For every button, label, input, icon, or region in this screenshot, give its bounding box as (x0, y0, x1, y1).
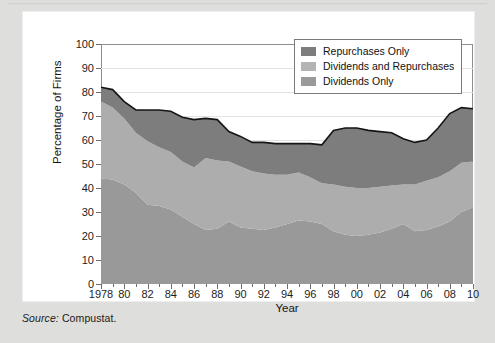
y-tick-mark (96, 236, 101, 237)
y-tick-label: 10 (66, 254, 94, 266)
x-tick-mark (415, 284, 416, 287)
legend-item: Repurchases Only (300, 44, 454, 58)
x-tick-label: 94 (281, 288, 293, 300)
x-tick-mark (438, 284, 439, 287)
y-tick-label: 70 (66, 110, 94, 122)
y-tick-label: 80 (66, 86, 94, 98)
source-note: Source: Compustat. (22, 312, 117, 324)
y-tick-mark (96, 188, 101, 189)
x-tick-label: 88 (211, 288, 223, 300)
x-tick-mark (113, 284, 114, 287)
figure-top-rule (8, 3, 487, 6)
x-tick-label: 84 (165, 288, 177, 300)
legend-label: Dividends Only (323, 75, 394, 87)
y-tick-label: 20 (66, 230, 94, 242)
x-tick-mark (182, 284, 183, 287)
x-tick-mark (252, 284, 253, 287)
legend-label: Repurchases Only (323, 45, 409, 57)
legend-swatch (300, 76, 317, 87)
x-tick-mark (368, 284, 369, 287)
x-tick-label: 00 (351, 288, 363, 300)
x-tick-label: 98 (327, 288, 339, 300)
chart-legend: Repurchases OnlyDividends and Repurchase… (294, 39, 462, 94)
y-tick-mark (96, 260, 101, 261)
x-axis-title: Year (101, 302, 473, 314)
y-tick-mark (96, 140, 101, 141)
y-tick-mark (96, 164, 101, 165)
x-tick-label: 04 (397, 288, 409, 300)
x-tick-mark (461, 284, 462, 287)
legend-label: Dividends and Repurchases (323, 60, 454, 72)
x-tick-label: 82 (141, 288, 153, 300)
x-tick-mark (159, 284, 160, 287)
x-tick-mark (229, 284, 230, 287)
y-axis-title: Percentage of Firms (51, 60, 63, 164)
x-tick-label: 02 (374, 288, 386, 300)
legend-item: Dividends Only (300, 74, 454, 88)
y-tick-label: 60 (66, 134, 94, 146)
y-tick-mark (96, 212, 101, 213)
figure-container: Percentage of Firms Year 197880828486889… (0, 0, 495, 343)
y-tick-label: 30 (66, 206, 94, 218)
x-tick-label: 90 (234, 288, 246, 300)
x-tick-label: 10 (467, 288, 479, 300)
legend-swatch (300, 46, 317, 57)
y-tick-label: 100 (66, 38, 94, 50)
legend-swatch (300, 61, 317, 72)
y-tick-mark (96, 68, 101, 69)
y-tick-label: 90 (66, 62, 94, 74)
x-tick-mark (206, 284, 207, 287)
legend-item: Dividends and Repurchases (300, 59, 454, 73)
x-tick-label: 96 (304, 288, 316, 300)
x-tick-mark (136, 284, 137, 287)
x-tick-mark (322, 284, 323, 287)
y-tick-label: 40 (66, 182, 94, 194)
y-tick-mark (96, 44, 101, 45)
x-tick-label: 92 (258, 288, 270, 300)
x-tick-mark (275, 284, 276, 287)
source-note-label: Source: (22, 312, 59, 324)
source-note-text: Compustat. (59, 312, 117, 324)
y-tick-mark (96, 116, 101, 117)
x-tick-label: 80 (118, 288, 130, 300)
x-tick-mark (299, 284, 300, 287)
x-tick-label: 86 (188, 288, 200, 300)
x-tick-mark (392, 284, 393, 287)
y-tick-label: 0 (66, 278, 94, 290)
x-tick-label: 06 (420, 288, 432, 300)
x-tick-mark (345, 284, 346, 287)
y-tick-label: 50 (66, 158, 94, 170)
x-tick-label: 08 (444, 288, 456, 300)
y-tick-mark (96, 92, 101, 93)
chart-card: Percentage of Firms Year 197880828486889… (22, 11, 475, 302)
